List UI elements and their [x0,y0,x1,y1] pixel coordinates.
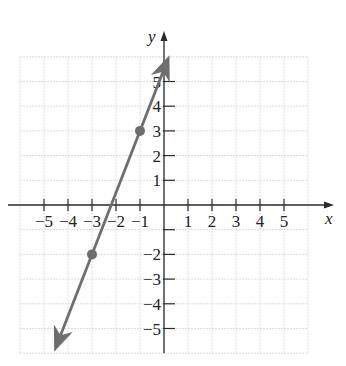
y-tick-label: −5 [143,320,161,339]
data-point [87,249,97,259]
y-tick-label: 4 [153,97,162,116]
x-tick-label: −4 [59,212,78,231]
data-point [135,126,145,136]
x-tick-label: −1 [131,212,149,231]
x-tick-label: 4 [256,212,265,231]
axes [8,31,334,353]
y-tick-label: −3 [143,270,161,289]
x-tick-label: 3 [232,212,241,231]
x-tick-label: 2 [208,212,217,231]
x-tick-label: −5 [35,212,53,231]
x-tick-label: −2 [107,212,125,231]
x-axis-label: x [324,209,333,228]
x-tick-label: −3 [83,212,101,231]
coordinate-plane: −5−4−3−2−112345 −5−4−3−212345 x y [0,0,346,366]
y-tick-label: −2 [143,245,161,264]
x-tick-labels: −5−4−3−2−112345 [35,212,288,231]
y-tick-label: 3 [153,122,162,141]
x-axis-arrow-icon [324,202,334,209]
x-tick-label: 5 [280,212,289,231]
y-axis-arrow-icon [161,31,168,41]
y-tick-label: 2 [153,147,162,166]
y-axis-label: y [146,27,156,46]
y-tick-label: −4 [143,295,162,314]
y-tick-label: 1 [153,171,162,190]
x-tick-label: 1 [184,212,193,231]
